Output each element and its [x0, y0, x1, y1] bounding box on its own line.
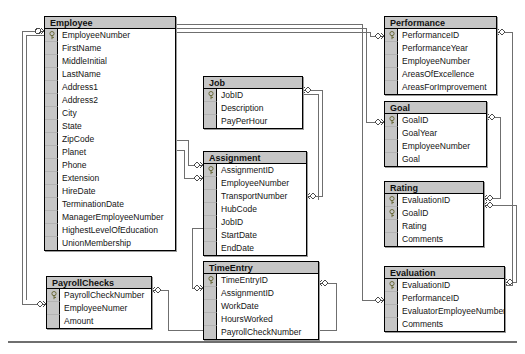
attribute-row[interactable]: EmployeeNumber [45, 29, 175, 42]
attribute-gutter [45, 185, 58, 198]
entity-assignment[interactable]: AssignmentAssignmentIDEmployeeNumberTran… [203, 151, 307, 256]
attribute-row[interactable]: Comments [385, 233, 483, 246]
attribute-row[interactable]: Address1 [45, 81, 175, 94]
attribute-gutter [385, 318, 398, 331]
entity-evaluation[interactable]: EvaluationEvaluationIDPerformanceIDEvalu… [384, 266, 505, 332]
entity-payrollchecks[interactable]: PayrollChecksPayrollCheckNumberEmployeeN… [46, 276, 152, 329]
attribute-gutter [45, 42, 58, 55]
attribute-row[interactable]: HubCode [204, 203, 306, 216]
attribute-row[interactable]: Comments [385, 318, 504, 331]
attribute-row[interactable]: GoalYear [385, 127, 486, 140]
attribute-row[interactable]: PayPerHour [204, 115, 302, 128]
primary-key-icon [47, 289, 60, 302]
attribute-name: EvaluationID [398, 279, 504, 292]
attribute-gutter [204, 300, 217, 313]
attribute-row[interactable]: Phone [45, 159, 175, 172]
attribute-gutter [204, 190, 217, 203]
attribute-row[interactable]: GoalID [385, 114, 486, 127]
attribute-row[interactable]: PerformanceID [385, 292, 504, 305]
attribute-row[interactable]: AssignmentID [204, 164, 306, 177]
primary-key-icon [204, 89, 217, 102]
entity-timeentry[interactable]: TimeEntryTimeEntryIDAssignmentIDWorkDate… [203, 261, 319, 340]
attribute-name: HoursWorked [217, 313, 318, 326]
attribute-row[interactable]: Amount [47, 315, 151, 328]
attribute-row[interactable]: JobID [204, 89, 302, 102]
attribute-row[interactable]: ZipCode [45, 133, 175, 146]
attribute-row[interactable]: AssignmentID [204, 287, 318, 300]
attribute-name: Goal [398, 153, 486, 166]
attribute-row[interactable]: MiddleInitial [45, 55, 175, 68]
attribute-gutter [47, 302, 60, 315]
entity-performance[interactable]: PerformancePerformanceIDPerformanceYearE… [384, 16, 497, 95]
attribute-row[interactable]: WorkDate [204, 300, 318, 313]
attribute-row[interactable]: StartDate [204, 229, 306, 242]
attribute-row[interactable]: PerformanceID [385, 29, 496, 42]
attribute-row[interactable]: HireDate [45, 185, 175, 198]
attribute-row[interactable]: FirstName [45, 42, 175, 55]
attribute-name: Extension [58, 172, 175, 185]
attribute-row[interactable]: EvaluationID [385, 279, 504, 292]
attribute-row[interactable]: TransportNumber [204, 190, 306, 203]
attribute-row[interactable]: HighestLevelOfEducation [45, 224, 175, 237]
entity-attributes-assignment: AssignmentIDEmployeeNumberTransportNumbe… [204, 164, 306, 255]
attribute-row[interactable]: EmployeeNumber [204, 177, 306, 190]
attribute-row[interactable]: Description [204, 102, 302, 115]
attribute-name: Rating [398, 220, 483, 233]
attribute-row[interactable]: EmployeeNumber [385, 55, 496, 68]
entity-attributes-employee: EmployeeNumberFirstNameMiddleInitialLast… [45, 29, 175, 250]
attribute-row[interactable]: AreasOfExcellence [385, 68, 496, 81]
attribute-row[interactable]: Goal [385, 153, 486, 166]
attribute-name: ZipCode [58, 133, 175, 146]
attribute-name: UnionMembership [58, 237, 175, 250]
attribute-row[interactable]: UnionMembership [45, 237, 175, 250]
entity-rating[interactable]: RatingEvaluationIDGoalIDRatingComments [384, 181, 484, 247]
entity-title-timeentry: TimeEntry [204, 262, 318, 274]
attribute-name: EvaluatorEmployeeNumber [398, 305, 504, 318]
attribute-gutter [204, 177, 217, 190]
attribute-row[interactable]: TimeEntryID [204, 274, 318, 287]
attribute-row[interactable]: HoursWorked [204, 313, 318, 326]
entity-job[interactable]: JobJobIDDescriptionPayPerHour [203, 76, 303, 129]
attribute-gutter [45, 159, 58, 172]
attribute-gutter [45, 224, 58, 237]
attribute-row[interactable]: GoalID [385, 207, 483, 220]
attribute-gutter [45, 198, 58, 211]
primary-key-icon [45, 29, 58, 42]
attribute-name: AreasForImprovement [398, 81, 496, 94]
attribute-name: Comments [398, 233, 483, 246]
attribute-row[interactable]: State [45, 120, 175, 133]
attribute-row[interactable]: PerformanceYear [385, 42, 496, 55]
attribute-name: PerformanceID [398, 29, 496, 42]
attribute-gutter [204, 115, 217, 128]
entity-title-payrollchecks: PayrollChecks [47, 277, 151, 289]
attribute-row[interactable]: Address2 [45, 94, 175, 107]
attribute-row[interactable]: Extension [45, 172, 175, 185]
attribute-row[interactable]: TerminationDate [45, 198, 175, 211]
attribute-name: HubCode [217, 203, 306, 216]
attribute-row[interactable]: AreasForImprovement [385, 81, 496, 94]
attribute-row[interactable]: PayrollCheckNumber [47, 289, 151, 302]
attribute-row[interactable]: JobID [204, 216, 306, 229]
attribute-row[interactable]: City [45, 107, 175, 120]
attribute-row[interactable]: EmployeeNumber [385, 140, 486, 153]
entity-attributes-goal: GoalIDGoalYearEmployeeNumberGoal [385, 114, 486, 166]
attribute-row[interactable]: Planet [45, 146, 175, 159]
attribute-row[interactable]: EmployeeNumer [47, 302, 151, 315]
attribute-row[interactable]: LastName [45, 68, 175, 81]
attribute-name: Phone [58, 159, 175, 172]
attribute-row[interactable]: EvaluationID [385, 194, 483, 207]
entity-employee[interactable]: EmployeeEmployeeNumberFirstNameMiddleIni… [44, 16, 176, 251]
attribute-row[interactable]: EndDate [204, 242, 306, 255]
attribute-gutter [45, 81, 58, 94]
attribute-name: GoalYear [398, 127, 486, 140]
entity-attributes-rating: EvaluationIDGoalIDRatingComments [385, 194, 483, 246]
attribute-name: GoalID [398, 114, 486, 127]
attribute-gutter [385, 140, 398, 153]
attribute-row[interactable]: ManagerEmployeeNumber [45, 211, 175, 224]
entity-goal[interactable]: GoalGoalIDGoalYearEmployeeNumberGoal [384, 101, 487, 167]
attribute-name: PerformanceID [398, 292, 504, 305]
attribute-name: AssignmentID [217, 164, 306, 177]
attribute-row[interactable]: PayrollCheckNumber [204, 326, 318, 339]
attribute-row[interactable]: Rating [385, 220, 483, 233]
attribute-row[interactable]: EvaluatorEmployeeNumber [385, 305, 504, 318]
